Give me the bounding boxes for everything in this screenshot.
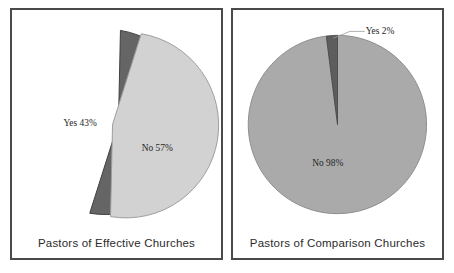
pie-chart-comparison: Yes 2% No 98% bbox=[233, 10, 442, 237]
pie-chart-effective: Yes 43% No 57% bbox=[12, 10, 221, 237]
slice-label-no-effective: No 57% bbox=[142, 143, 173, 153]
pie-chart-figure: Yes 43% No 57% Pastors of Effective Chur… bbox=[0, 0, 454, 273]
panel-comparison-churches: Yes 2% No 98% Pastors of Comparison Chur… bbox=[231, 8, 444, 260]
slice-label-no-comparison: No 98% bbox=[312, 158, 343, 168]
panel-effective-churches: Yes 43% No 57% Pastors of Effective Chur… bbox=[10, 8, 223, 260]
pie-svg-effective: Yes 43% No 57% bbox=[12, 10, 221, 237]
pie-svg-comparison: Yes 2% No 98% bbox=[233, 10, 442, 237]
slice-label-yes-effective: Yes 43% bbox=[64, 118, 97, 128]
panel-caption-comparison: Pastors of Comparison Churches bbox=[250, 237, 425, 258]
slice-label-yes-comparison: Yes 2% bbox=[366, 26, 395, 36]
panel-container: Yes 43% No 57% Pastors of Effective Chur… bbox=[10, 8, 444, 260]
panel-caption-effective: Pastors of Effective Churches bbox=[38, 237, 195, 258]
